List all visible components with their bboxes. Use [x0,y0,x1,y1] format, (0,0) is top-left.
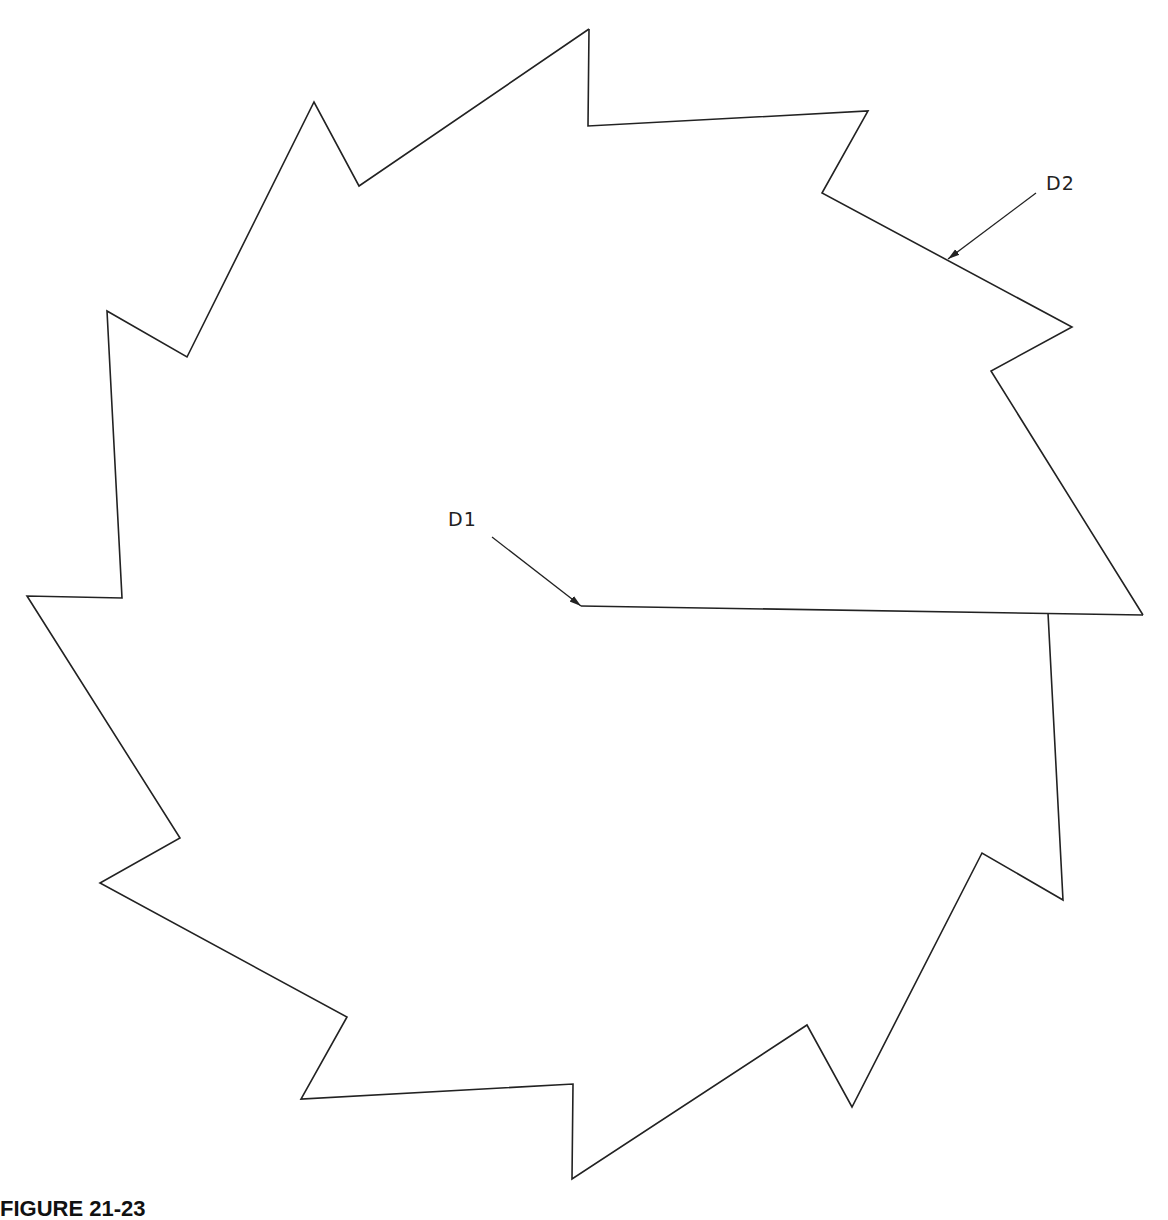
figure-caption: FIGURE 21-23 [0,1196,146,1220]
d2-leader-arrow [948,193,1036,259]
blade-outline-lower [27,29,1063,1179]
radial-edge-line [581,606,1143,615]
blade-outline-upper [588,29,1143,615]
label-d1: D1 [448,508,477,530]
d1-leader-arrow [492,537,581,606]
label-d2: D2 [1046,172,1075,194]
